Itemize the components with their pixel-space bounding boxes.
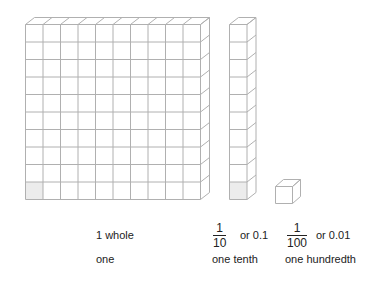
hundredth-word-label: one hundredth [285, 254, 356, 265]
tenth-denominator: 10 [213, 236, 226, 249]
hundredth-denominator: 100 [287, 236, 307, 249]
tenth-decimal-label: or 0.1 [240, 230, 268, 241]
hundredth-fraction: 1 100 [287, 222, 307, 249]
tenth-word-label: one tenth [212, 254, 258, 265]
whole-value-label: 1 whole [96, 230, 134, 241]
tenth-fraction: 1 10 [213, 222, 226, 249]
whole-word-label: one [96, 254, 114, 265]
hundredth-cube [276, 180, 301, 204]
hundredth-numerator: 1 [287, 222, 307, 236]
tenth-rod [230, 18, 257, 200]
whole-block [26, 18, 210, 200]
tenth-numerator: 1 [213, 222, 226, 236]
hundredth-decimal-label: or 0.01 [316, 230, 350, 241]
